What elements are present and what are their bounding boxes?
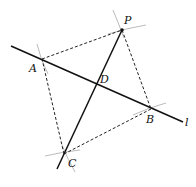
point-p [120, 28, 124, 32]
arc-at-c-1 [45, 150, 80, 156]
dashed-segment-ca [42, 59, 64, 154]
label-d: D [99, 73, 109, 86]
geometry-diagram: P A D B l C [0, 0, 196, 187]
line-pc [57, 30, 122, 169]
label-a: A [28, 62, 37, 75]
label-p: P [123, 14, 132, 27]
dashed-segment-bc [64, 109, 151, 154]
label-l: l [185, 116, 189, 129]
arc-at-p-1 [113, 10, 124, 38]
label-c: C [68, 157, 77, 170]
label-b: B [145, 113, 154, 126]
